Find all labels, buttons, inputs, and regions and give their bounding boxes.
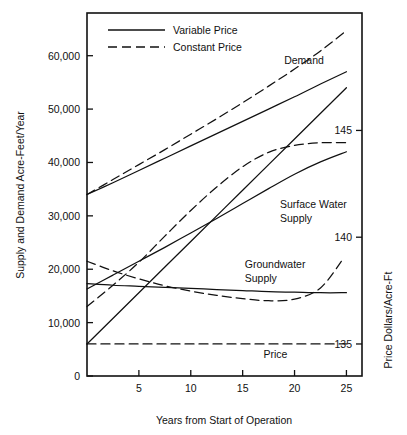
y-tick-label: 30,000: [48, 210, 80, 222]
plot-frame: [87, 13, 362, 376]
legend: Variable Price Constant Price: [108, 24, 242, 53]
x-tick-label: 5: [136, 382, 142, 394]
series-annotation-label: Supply: [245, 272, 278, 284]
supply-demand-price-chart: 010,00020,00030,00040,00050,00060,000 13…: [0, 0, 407, 435]
y2-tick-label: 145: [334, 124, 352, 136]
chart-figure: 010,00020,00030,00040,00050,00060,000 13…: [0, 0, 407, 435]
x-tick-label: 25: [341, 382, 353, 394]
y-tick-label: 40,000: [48, 156, 80, 168]
x-tick-label: 15: [237, 382, 249, 394]
series-annotation-label: Groundwater: [245, 258, 306, 270]
series-annotation-label: Demand: [284, 54, 324, 66]
series-annotation-label: Price: [263, 348, 287, 360]
y-axis-left-title: Supply and Demand Acre-Feet/Year: [14, 111, 26, 279]
y-tick-label: 0: [74, 370, 80, 382]
series-line: [87, 284, 346, 293]
y-tick-label: 50,000: [48, 103, 80, 115]
y-axis-right-title: Price Dollars/Acre-Ft: [382, 271, 394, 368]
y-axis-right-ticks: 135140145: [334, 124, 362, 350]
x-axis-ticks: 510152025: [136, 370, 352, 394]
legend-label-variable-price: Variable Price: [173, 24, 238, 36]
x-tick-label: 10: [185, 382, 197, 394]
y-tick-label: 60,000: [48, 50, 80, 62]
y-tick-label: 20,000: [48, 263, 80, 275]
series-annotation-label: Supply: [280, 212, 313, 224]
x-tick-label: 20: [289, 382, 301, 394]
series-annotations: DemandSurface WaterSupplyGroundwaterSupp…: [245, 54, 348, 361]
legend-label-constant-price: Constant Price: [173, 41, 242, 53]
series-annotation-label: Surface Water: [280, 198, 347, 210]
y-tick-label: 10,000: [48, 317, 80, 329]
series-line: [87, 72, 346, 195]
data-curves: [87, 31, 346, 344]
x-axis-title: Years from Start of Operation: [156, 414, 292, 426]
y2-tick-label: 140: [334, 231, 352, 243]
